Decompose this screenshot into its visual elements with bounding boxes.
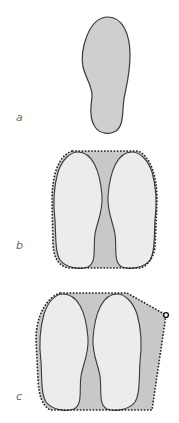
stance-figure (0, 0, 179, 423)
panel-label-c: c (16, 391, 22, 402)
panel-c (36, 293, 168, 410)
panel-label-a: a (16, 112, 23, 123)
panel-label-b: b (16, 240, 23, 251)
panel-a-foot (82, 17, 130, 133)
panel-b (52, 151, 157, 268)
contact-point-icon (164, 313, 169, 318)
